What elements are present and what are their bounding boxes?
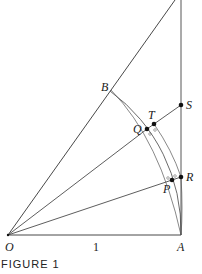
unit-length-label: 1: [93, 240, 99, 254]
point-O: [7, 234, 9, 236]
figure-caption: FIGURE 1: [1, 258, 60, 270]
point-T: [152, 122, 157, 127]
label-S: S: [186, 98, 192, 112]
arc-TR: [154, 124, 181, 177]
point-Q: [145, 127, 150, 132]
point-P: [170, 178, 175, 183]
label-Q: Q: [133, 122, 142, 136]
label-O: O: [5, 240, 14, 254]
label-P: P: [162, 182, 171, 196]
point-S: [179, 103, 184, 108]
right-angle-marker-P: [167, 177, 170, 180]
segment-TS: [154, 105, 181, 124]
ray-OP: [8, 180, 172, 235]
label-T: T: [148, 108, 156, 122]
point-R: [179, 175, 184, 180]
label-B: B: [101, 80, 109, 94]
right-angle-marker-T: [154, 129, 157, 132]
geometry-diagram: B T S Q R P O A 1: [0, 0, 202, 274]
right-angle-marker-R: [174, 175, 177, 178]
right-angle-marker-Q: [149, 133, 152, 136]
arc-BA-outer: [111, 90, 181, 235]
label-R: R: [185, 170, 194, 184]
label-A: A: [176, 240, 185, 254]
ray-OQ: [8, 129, 147, 235]
